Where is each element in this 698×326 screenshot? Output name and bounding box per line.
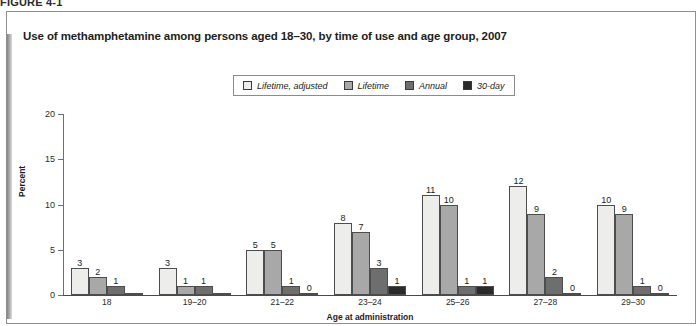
bar-value-label: 9: [534, 204, 539, 214]
bar[interactable]: 3: [71, 268, 89, 295]
bar-group-bars: 311: [159, 114, 231, 295]
figure-number: FIGURE 4-1: [0, 0, 63, 8]
bar[interactable]: 3: [159, 268, 177, 295]
bar-value-label: 1: [464, 276, 469, 286]
y-axis-tick-label: 15: [45, 154, 55, 164]
bar-value-label: 0: [570, 283, 575, 293]
bar-value-label: 7: [358, 222, 363, 232]
figure-panel: Use of methamphetamine among persons age…: [6, 11, 696, 324]
y-axis-tick: [58, 250, 63, 251]
bar[interactable]: 1: [177, 286, 195, 295]
x-axis-tick-label: 18: [102, 297, 111, 307]
y-axis-tick: [58, 114, 63, 115]
bar[interactable]: 7: [352, 232, 370, 295]
bar-group-bars: 8731: [334, 114, 406, 295]
y-axis-tick: [58, 205, 63, 206]
bar-value-label: 1: [183, 276, 188, 286]
bar-group-bars: 321: [71, 114, 143, 295]
plot-area: 051015203211831119–20551021–22873123–241…: [63, 114, 677, 296]
bar-value-label: 1: [201, 276, 206, 286]
bar[interactable]: 12: [509, 186, 527, 295]
bar-value-label: 2: [95, 267, 100, 277]
bar[interactable]: 5: [264, 250, 282, 295]
bar[interactable]: 1: [195, 286, 213, 295]
y-axis-tick-label: 0: [50, 290, 55, 300]
y-axis-tick-label: 5: [50, 245, 55, 255]
bar[interactable]: [125, 293, 143, 295]
bar-value-label: 1: [394, 276, 399, 286]
bar[interactable]: 1: [476, 286, 494, 295]
bar-group-bars: 10910: [597, 114, 669, 295]
bar-value-label: 5: [271, 240, 276, 250]
x-axis-tick-label: 21–22: [270, 297, 294, 307]
y-axis-tick: [58, 159, 63, 160]
bar-value-label: 5: [253, 240, 258, 250]
bar[interactable]: 1: [633, 286, 651, 295]
bar[interactable]: 0: [651, 293, 669, 295]
x-axis-tick-label: 19–20: [183, 297, 207, 307]
bar-group: 551021–22: [246, 114, 318, 295]
bar-group: 1292027–28: [509, 114, 581, 295]
bar[interactable]: 3: [370, 268, 388, 295]
bar-group: 32118: [71, 114, 143, 295]
bar-value-label: 1: [289, 276, 294, 286]
x-axis-tick-label: 25–26: [446, 297, 470, 307]
bar-value-label: 11: [426, 185, 435, 195]
bar-group: 31119–20: [159, 114, 231, 295]
bar-value-label: 2: [552, 267, 557, 277]
y-axis-line: [63, 114, 64, 296]
bar-value-label: 1: [113, 276, 118, 286]
bar[interactable]: 2: [89, 277, 107, 295]
y-axis-title: Percent: [17, 166, 27, 197]
bar-group-bars: 111011: [422, 114, 494, 295]
bar-value-label: 3: [376, 258, 381, 268]
bar-value-label: 1: [482, 276, 487, 286]
x-axis-tick-label: 23–24: [358, 297, 382, 307]
bar-value-label: 0: [658, 283, 663, 293]
bar[interactable]: 9: [615, 214, 633, 295]
bar-group: 873123–24: [334, 114, 406, 295]
bar-group: 1091029–30: [597, 114, 669, 295]
bar[interactable]: 0: [300, 293, 318, 295]
bar-group-bars: 12920: [509, 114, 581, 295]
bar[interactable]: 1: [458, 286, 476, 295]
x-axis-line: [63, 295, 677, 296]
bar[interactable]: 1: [388, 286, 406, 295]
bar-group-bars: 5510: [246, 114, 318, 295]
x-axis-tick-label: 27–28: [534, 297, 558, 307]
bar[interactable]: 2: [545, 277, 563, 295]
bar[interactable]: 10: [597, 205, 615, 296]
plot-area-wrapper: Percent 051015203211831119–20551021–2287…: [7, 12, 697, 325]
bar-value-label: 10: [601, 195, 611, 205]
bar-value-label: 8: [340, 213, 345, 223]
bar[interactable]: [213, 293, 231, 295]
bar[interactable]: 11: [422, 195, 440, 295]
bar-value-label: 10: [444, 195, 454, 205]
y-axis-tick-label: 20: [45, 109, 55, 119]
bar[interactable]: 9: [527, 214, 545, 295]
y-axis-tick-label: 10: [45, 200, 55, 210]
bar[interactable]: 0: [563, 293, 581, 295]
bar-value-label: 3: [165, 258, 170, 268]
bar[interactable]: 8: [334, 223, 352, 295]
bar[interactable]: 1: [107, 286, 125, 295]
x-axis-tick-label: 29–30: [621, 297, 645, 307]
bar-value-label: 3: [77, 258, 82, 268]
bar-value-label: 9: [622, 204, 627, 214]
bar[interactable]: 10: [440, 205, 458, 296]
bar[interactable]: 1: [282, 286, 300, 295]
y-axis-tick: [58, 295, 63, 296]
bar-group: 11101125–26: [422, 114, 494, 295]
bar[interactable]: 5: [246, 250, 264, 295]
bar-value-label: 0: [307, 283, 312, 293]
bar-value-label: 12: [513, 176, 523, 186]
x-axis-title: Age at administration: [63, 312, 677, 322]
bar-value-label: 1: [640, 276, 645, 286]
